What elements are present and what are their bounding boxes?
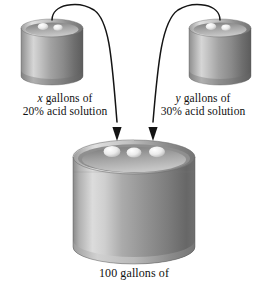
drum-cap [127, 148, 142, 158]
label-right-line1-rest: gallons of [181, 92, 231, 104]
large-drum [73, 140, 195, 264]
acid-mixture-diagram: x gallons of 20% acid solution y gallons… [0, 0, 268, 285]
drum-cap [221, 24, 230, 30]
drum-cap [206, 23, 216, 30]
label-left-line1: x gallons of [2, 92, 128, 105]
drum-cap [104, 146, 121, 157]
drum-cap [149, 146, 165, 157]
drum-cap [38, 23, 48, 30]
drum-cap [53, 24, 62, 30]
label-bottom-line1: 100 gallons of [34, 267, 234, 280]
small-drum-left [21, 19, 83, 85]
label-right-line1: y gallons of [140, 92, 266, 105]
label-left-line2: 20% acid solution [2, 105, 128, 118]
label-right-drum: y gallons of 30% acid solution [140, 92, 266, 119]
label-left-line1-rest: gallons of [43, 92, 93, 104]
small-drum-right [189, 19, 251, 85]
diagram-canvas [0, 0, 268, 285]
label-right-line2: 30% acid solution [140, 105, 266, 118]
label-left-drum: x gallons of 20% acid solution [2, 92, 128, 119]
label-large-drum: 100 gallons of [34, 267, 234, 280]
